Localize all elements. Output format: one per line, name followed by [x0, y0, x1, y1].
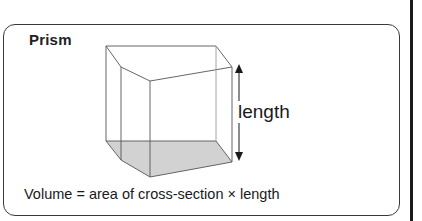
length-label: length [237, 101, 291, 123]
page-edge-divider [410, 0, 413, 221]
volume-formula: Volume = area of cross-section × length [24, 186, 280, 202]
cross-section-face [106, 141, 232, 177]
top-face [106, 46, 232, 81]
